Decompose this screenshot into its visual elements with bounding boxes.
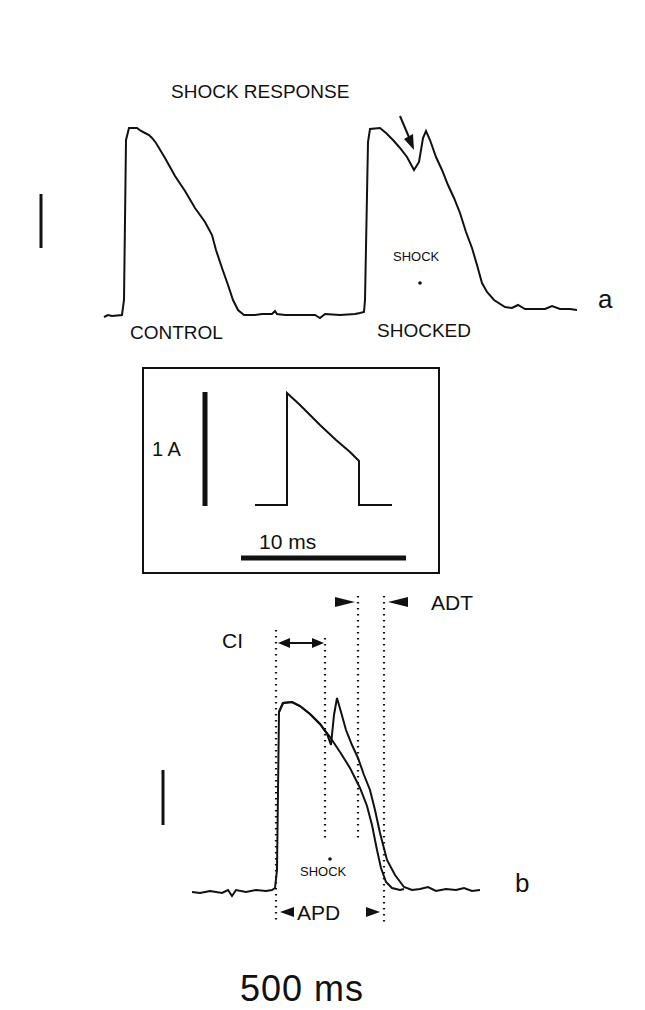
shocked-label: SHOCKED xyxy=(377,320,471,342)
shock-response-arrowhead-icon xyxy=(404,134,414,150)
shocked-action-potential-trace xyxy=(360,128,577,313)
ci-label: CI xyxy=(222,629,243,653)
apd-left-arrowhead-icon xyxy=(280,907,294,917)
current-scale-label: 1 A xyxy=(152,438,181,461)
apd-label: APD xyxy=(297,901,340,925)
shock-dot-b xyxy=(328,857,332,861)
figure-canvas xyxy=(0,0,645,1010)
ci-right-arrowhead-icon xyxy=(312,638,324,648)
panel-a-label: a xyxy=(598,284,612,315)
adt-label: ADT xyxy=(431,591,473,615)
shock-marker-label-a: SHOCK xyxy=(393,249,439,264)
apd-right-arrowhead-icon xyxy=(366,907,380,917)
stimulus-waveform-trace xyxy=(255,393,392,505)
shock-marker-label-b: SHOCK xyxy=(300,864,346,879)
time-scale-label: 500 ms xyxy=(240,968,364,1010)
control-action-potential-trace xyxy=(104,128,360,318)
shock-response-label: SHOCK RESPONSE xyxy=(171,81,349,103)
shock-dot-a xyxy=(418,281,422,285)
panel-b-label: b xyxy=(515,868,529,899)
adt-right-arrowhead-icon xyxy=(388,597,408,607)
adt-left-arrowhead-icon xyxy=(335,597,355,607)
control-label: CONTROL xyxy=(130,322,223,344)
ci-left-arrowhead-icon xyxy=(278,638,290,648)
inset-time-scale-label: 10 ms xyxy=(259,530,316,554)
